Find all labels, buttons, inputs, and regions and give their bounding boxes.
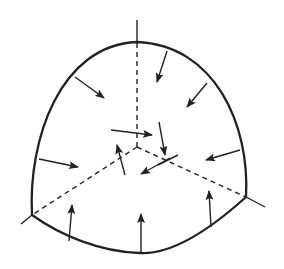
interior-tick-line — [158, 155, 178, 165]
boundary-arrow-2 — [187, 83, 207, 107]
axis-extensions — [21, 20, 265, 224]
boundary-arrow-7 — [209, 191, 211, 227]
boundary-arrow-3 — [39, 159, 78, 167]
surface-element-diagram — [0, 0, 284, 269]
left-axis — [32, 147, 137, 215]
interior-arrow-0 — [111, 130, 152, 135]
left-axis-extension — [21, 215, 32, 224]
boundary-arrow-1 — [157, 51, 167, 82]
interior-tick — [158, 155, 178, 165]
dashed-axes — [32, 42, 246, 215]
boundary-arrow-4 — [206, 150, 240, 160]
boundary-arrow-0 — [75, 77, 104, 98]
interior-arrow-1 — [159, 122, 165, 155]
right-axis-extension — [246, 197, 265, 207]
right-axis — [137, 147, 246, 197]
boundary-arrows — [39, 51, 240, 253]
